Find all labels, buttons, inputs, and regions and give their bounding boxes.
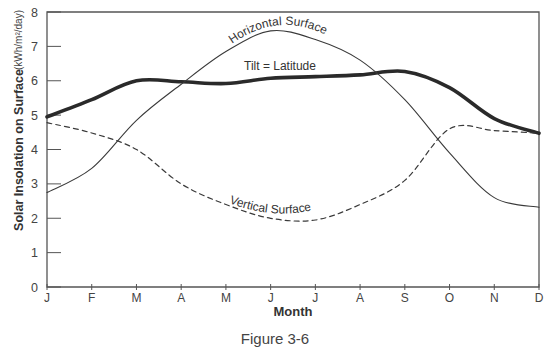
figure-caption: Figure 3-6 [0, 330, 550, 347]
x-tick-label: S [401, 291, 409, 305]
x-tick-label: F [88, 291, 95, 305]
tilt-latitude-line [47, 71, 539, 133]
solar-insolation-chart: 012345678 JFMAMJJASOND Horizontal Surfac… [0, 0, 550, 355]
x-tick-label: A [356, 291, 364, 305]
x-tick-label: O [445, 291, 454, 305]
y-tick-label: 8 [31, 6, 38, 20]
y-axis-units: (kWh/m²/day) [13, 10, 24, 70]
tilt-latitude-label: Tilt = Latitude [244, 59, 316, 73]
horizontal-surface-line [47, 30, 539, 207]
x-tick-label: J [268, 291, 274, 305]
y-tick-label: 7 [31, 40, 38, 54]
y-tick-label: 5 [31, 109, 38, 123]
series-labels: Horizontal SurfaceTilt = LatitudeVertica… [226, 14, 335, 217]
y-axis-ticks: 012345678 [31, 6, 61, 295]
x-tick-label: M [221, 291, 231, 305]
x-tick-label: J [312, 291, 318, 305]
y-tick-label: 0 [31, 281, 38, 295]
y-tick-label: 2 [31, 212, 38, 226]
x-tick-label: N [490, 291, 499, 305]
plot-border [47, 12, 539, 287]
y-axis-title: Solar Insolation on Surface(kWh/m²/day) [12, 10, 26, 231]
x-tick-label: A [177, 291, 185, 305]
y-tick-label: 6 [31, 74, 38, 88]
vertical-surface-label: Vertical Surface [228, 193, 313, 217]
y-tick-label: 1 [31, 246, 38, 260]
x-tick-label: M [131, 291, 141, 305]
x-tick-label: D [535, 291, 544, 305]
y-axis-label: Solar Insolation on Surface [12, 69, 26, 231]
x-tick-label: J [44, 291, 50, 305]
x-axis-title: Month [0, 304, 550, 319]
y-tick-label: 4 [31, 143, 38, 157]
plot-frame [47, 12, 539, 287]
y-tick-label: 3 [31, 177, 38, 191]
